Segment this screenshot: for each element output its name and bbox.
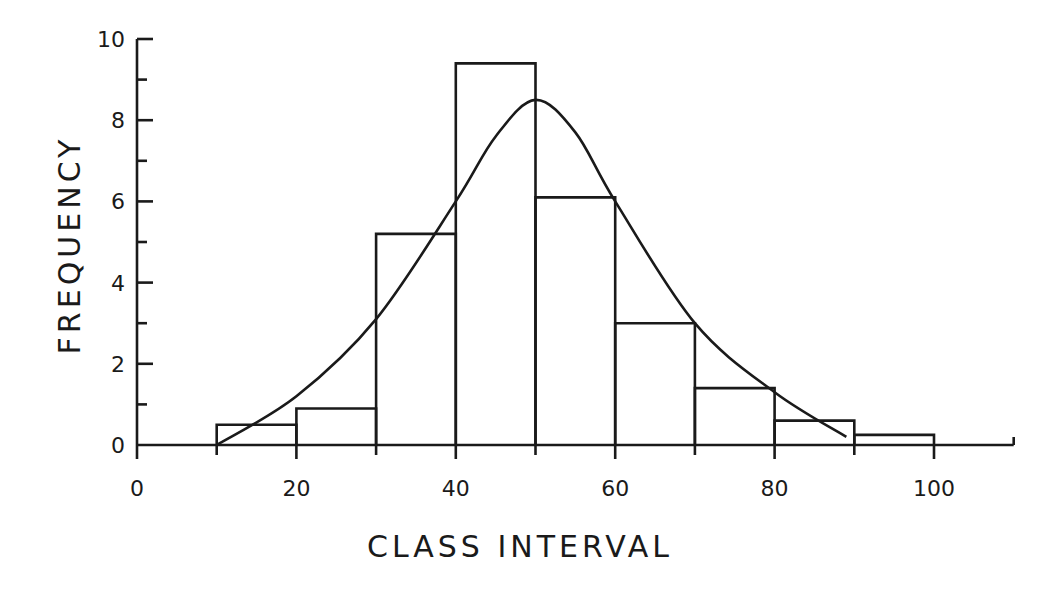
histogram-bar bbox=[536, 197, 616, 445]
x-axis-title: CLASS INTERVAL bbox=[367, 529, 673, 564]
y-axis-ticks: 0246810 bbox=[97, 27, 153, 458]
histogram-chart: 020406080100 0246810 CLASS INTERVAL FREQ… bbox=[0, 0, 1055, 589]
histogram-bar bbox=[695, 388, 775, 445]
y-tick-label: 2 bbox=[111, 352, 125, 377]
histogram-bar bbox=[615, 323, 695, 445]
axes bbox=[137, 39, 1014, 459]
x-axis-ticks: 020406080100 bbox=[130, 445, 955, 501]
histogram-bar bbox=[456, 63, 536, 445]
y-tick-label: 6 bbox=[111, 189, 125, 214]
histogram-bar bbox=[217, 425, 297, 445]
x-tick-label: 60 bbox=[601, 476, 629, 501]
y-tick-label: 4 bbox=[111, 271, 125, 296]
x-tick-label: 100 bbox=[913, 476, 955, 501]
x-tick-label: 0 bbox=[130, 476, 144, 501]
histogram-bar bbox=[775, 421, 855, 445]
y-tick-label: 10 bbox=[97, 27, 125, 52]
histogram-bars bbox=[217, 63, 934, 445]
x-tick-label: 20 bbox=[282, 476, 310, 501]
y-tick-label: 0 bbox=[111, 433, 125, 458]
histogram-bar bbox=[296, 408, 376, 445]
x-tick-label: 40 bbox=[442, 476, 470, 501]
y-tick-label: 8 bbox=[111, 108, 125, 133]
y-axis-title: FREQUENCY bbox=[52, 136, 87, 355]
histogram-bar bbox=[376, 234, 456, 445]
x-tick-label: 80 bbox=[761, 476, 789, 501]
fitted-normal-curve bbox=[217, 100, 847, 445]
histogram-bar bbox=[854, 435, 934, 445]
